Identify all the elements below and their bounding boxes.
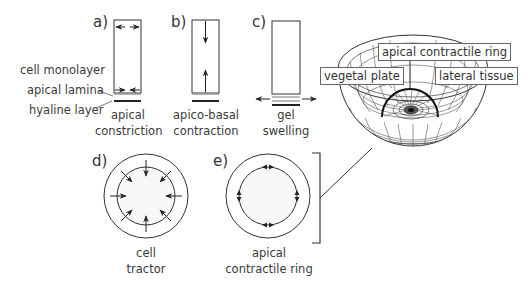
panel-b-label: b)	[171, 13, 186, 31]
caption-line: contraction	[171, 123, 241, 139]
caption-line: constriction	[95, 123, 161, 139]
panel-d-caption: cell tractor	[116, 245, 176, 277]
lateral-tissue-label: lateral tissue	[435, 67, 518, 85]
panel-b-cell-diagram	[192, 20, 219, 101]
cell-monolayer-label: cell monolayer	[20, 64, 105, 77]
panel-e-ring-diagram	[226, 148, 372, 243]
panel-d-ring-diagram	[104, 154, 188, 238]
panel-e-label: e)	[213, 152, 228, 170]
panel-a-caption: apical constriction	[95, 107, 161, 139]
caption-line: cell	[116, 245, 176, 261]
caption-line: apico-basal	[171, 107, 241, 123]
panel-c-caption: gel swelling	[256, 107, 316, 139]
apical-contractile-ring-label: apical contractile ring	[378, 43, 511, 61]
caption-line: apical	[223, 245, 315, 261]
apical-lamina-label: apical lamina	[27, 84, 104, 97]
panel-c-label: c)	[252, 13, 266, 31]
caption-line: tractor	[116, 261, 176, 277]
panel-b-caption: apico-basal contraction	[171, 107, 241, 139]
caption-line: apical	[95, 107, 161, 123]
hyaline-layer-label: hyaline layer	[29, 104, 103, 117]
panel-d-label: d)	[92, 152, 107, 170]
caption-line: swelling	[256, 123, 316, 139]
panel-e-caption: apical contractile ring	[223, 245, 315, 277]
vegetal-plate-label: vegetal plate	[320, 67, 404, 85]
panel-a-label: a)	[93, 13, 108, 31]
caption-line: contractile ring	[223, 261, 315, 277]
caption-line: gel	[256, 107, 316, 123]
panel-c-cell-diagram	[256, 21, 316, 105]
